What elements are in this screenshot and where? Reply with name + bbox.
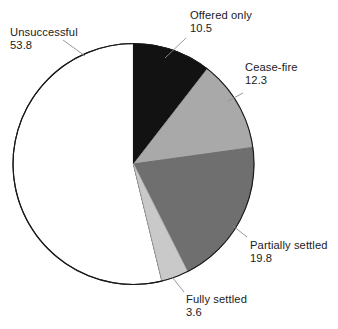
pie-label-cease-fire-name: Cease-fire <box>245 61 298 74</box>
pie-label-unsuccessful: Unsuccessful 53.8 <box>10 26 78 52</box>
pie-label-fully-settled: Fully settled 3.6 <box>186 293 247 319</box>
pie-label-offered-only-name: Offered only <box>190 9 252 22</box>
leader-line-fully-settled <box>172 277 184 292</box>
pie-label-partially-settled: Partially settled 19.8 <box>250 239 328 265</box>
pie-label-fully-settled-name: Fully settled <box>186 293 247 306</box>
pie-label-unsuccessful-value: 53.8 <box>10 39 78 52</box>
pie-label-offered-only-value: 10.5 <box>190 22 252 35</box>
pie-label-fully-settled-value: 3.6 <box>186 306 247 319</box>
pie-chart-figure: Offered only 10.5 Cease-fire 12.3 Partia… <box>0 0 338 329</box>
pie-label-unsuccessful-name: Unsuccessful <box>10 26 78 39</box>
pie-label-cease-fire: Cease-fire 12.3 <box>245 61 298 87</box>
pie-label-offered-only: Offered only 10.5 <box>190 9 252 35</box>
leader-line-partially-settled <box>233 226 247 237</box>
pie-label-cease-fire-value: 12.3 <box>245 74 298 87</box>
pie-label-partially-settled-name: Partially settled <box>250 239 328 252</box>
pie-label-partially-settled-value: 19.8 <box>250 252 328 265</box>
